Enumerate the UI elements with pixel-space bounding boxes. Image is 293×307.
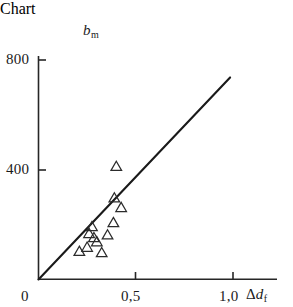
y-axis-title: bm bbox=[83, 22, 98, 39]
x-tick-label-05: 0,5 bbox=[121, 288, 140, 305]
x-axis-title-subscript: f bbox=[264, 293, 267, 304]
x-axis-title-delta: Δ bbox=[246, 286, 256, 302]
trend-line bbox=[39, 77, 231, 279]
y-axis-ticks bbox=[39, 60, 47, 170]
y-axis-title-subscript: m bbox=[91, 29, 99, 40]
data-point-marker bbox=[96, 248, 107, 257]
x-axis-title: Δdf bbox=[246, 286, 267, 303]
x-tick-label-0: 0 bbox=[21, 288, 29, 305]
data-point-markers bbox=[74, 161, 126, 256]
data-point-marker bbox=[116, 202, 127, 211]
data-point-marker bbox=[102, 230, 113, 239]
axis-lines bbox=[39, 56, 278, 280]
y-axis-title-var: b bbox=[83, 22, 91, 38]
x-axis-ticks bbox=[136, 272, 234, 280]
data-point-marker bbox=[108, 217, 119, 226]
data-point-marker bbox=[111, 161, 122, 170]
y-tick-label-800: 800 bbox=[6, 51, 29, 68]
scatter-chart-figure: bm Δdf 800 400 0 0,5 1,0 bbox=[0, 18, 293, 307]
data-point-marker bbox=[82, 242, 93, 251]
x-tick-label-10: 1,0 bbox=[219, 288, 238, 305]
plot-canvas bbox=[0, 18, 293, 307]
y-tick-label-400: 400 bbox=[6, 161, 29, 178]
x-axis-title-var: d bbox=[256, 286, 264, 302]
